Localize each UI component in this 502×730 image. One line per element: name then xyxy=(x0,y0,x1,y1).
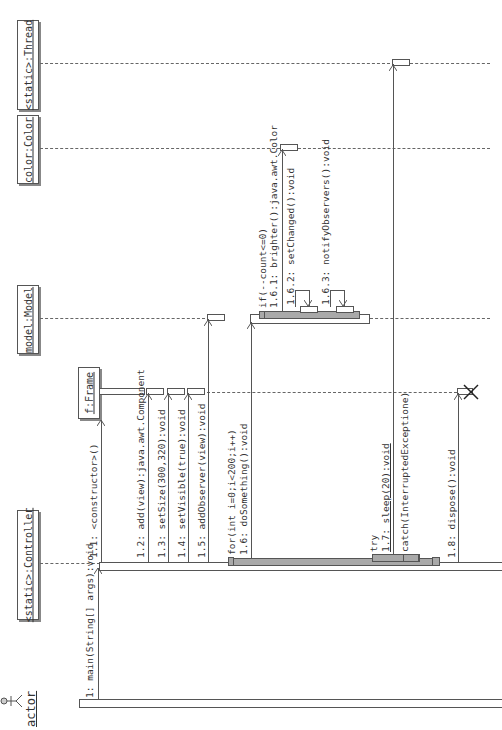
activation-controller-catch xyxy=(403,554,419,562)
lifeline-model xyxy=(40,318,205,319)
arrowhead-1-7 xyxy=(389,65,397,71)
destroy-frame-icon xyxy=(463,384,479,400)
message-1-8-line[interactable] xyxy=(458,393,459,562)
actor-label: actor xyxy=(26,697,40,727)
message-1-1-line[interactable] xyxy=(101,420,102,562)
lifeline-thread-tail xyxy=(410,63,490,64)
arrowhead-1-6-1 xyxy=(278,150,286,156)
arrowhead-1-5 xyxy=(204,320,212,326)
message-1-7-guard: try xyxy=(368,535,379,552)
message-1-4-label: 1.4: setVisible(true):void xyxy=(176,409,187,558)
lifeline-label-model: model:Model xyxy=(23,286,34,352)
message-1-2-line[interactable] xyxy=(148,393,149,562)
message-1-4-line[interactable] xyxy=(188,393,189,562)
arrowhead-1-1 xyxy=(97,420,105,426)
message-1-6-line[interactable] xyxy=(251,322,252,558)
activation-actor xyxy=(79,699,502,708)
arrowhead-1-4 xyxy=(184,394,192,400)
activation-controller-tail xyxy=(432,557,440,566)
lifeline-model-tail xyxy=(370,318,490,319)
message-1-6-1-line[interactable] xyxy=(282,149,283,311)
activation-model-1-6-edge xyxy=(259,311,265,319)
lifeline-label-color: color:Color xyxy=(23,116,34,182)
arrowhead-1-8 xyxy=(454,394,462,400)
message-1-6-label: 1.6: doSomething():void xyxy=(238,423,249,555)
message-1-8-label: 1.8: dispose():void xyxy=(446,449,457,558)
message-1-3-label: 1.3: setSize(300,320):void xyxy=(156,409,167,558)
lifeline-color xyxy=(40,148,280,149)
lifeline-header-model[interactable]: model:Model xyxy=(17,285,39,354)
arrowhead-1-3 xyxy=(164,394,172,400)
lifeline-frame xyxy=(207,392,457,393)
lifeline-header-color[interactable]: color:Color xyxy=(17,115,39,184)
message-1-label: 1: main(String[] args):void xyxy=(84,544,95,698)
activation-model-1-6-3 xyxy=(336,306,354,313)
arrowhead-1-6 xyxy=(247,323,255,329)
message-1-2-label: 1.2: add(view):java.awt.Component xyxy=(135,369,146,558)
arrowhead-1-6-2 xyxy=(304,300,312,306)
message-1-line[interactable] xyxy=(98,568,99,699)
lifeline-label-thread: <static>:Thread xyxy=(23,20,34,110)
message-1-6-1-guard: if(--count<=0) xyxy=(257,228,268,308)
message-1-6-3-label: 1.6.3: notifyObservers():void xyxy=(320,139,331,305)
lifeline-thread xyxy=(40,63,390,64)
message-1-6-guard: for(int i=0;i<200;i++) xyxy=(226,429,237,555)
message-1-6-1-label: 1.6.1: brighter():java.awt.Color xyxy=(268,125,279,308)
message-1-7-label: 1.7: sleep(20):void xyxy=(380,443,391,552)
activation-model-1-6-2 xyxy=(300,306,318,313)
activation-controller-loop-edge xyxy=(228,557,234,566)
catch-label: catch(InterruptedExceptione) xyxy=(399,392,410,552)
arrowhead-1-6-3 xyxy=(339,300,347,306)
actor-icon xyxy=(0,690,24,712)
message-1-6-2-label: 1.6.2: setChanged():void xyxy=(285,168,296,305)
message-1-1-label: 1.1: <constructor>() xyxy=(88,444,99,558)
message-1-5-line[interactable] xyxy=(208,319,209,562)
lifeline-label-frame: f:Frame xyxy=(84,372,95,414)
lifeline-header-frame[interactable]: f:Frame xyxy=(78,367,100,419)
lifeline-header-thread[interactable]: <static>:Thread xyxy=(17,20,39,110)
arrowhead-1 xyxy=(94,568,102,574)
message-1-7-line[interactable] xyxy=(393,64,394,554)
message-1-3-line[interactable] xyxy=(168,393,169,562)
lifeline-label-controller: <static>:Controller xyxy=(23,508,34,622)
lifeline-header-controller[interactable]: <static>:Controller xyxy=(17,510,39,620)
message-1-5-label: 1.5: addObserver(view):void xyxy=(196,404,207,558)
